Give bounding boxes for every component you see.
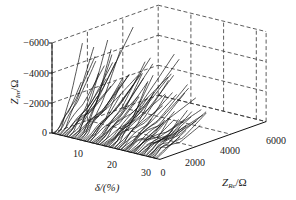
impedance-curve xyxy=(55,82,81,134)
impedance-3d-chart: −6000 −4000 −2000 0 10 20 30 0 2000 4000… xyxy=(0,0,296,200)
z-axis-title-unit: /Ω xyxy=(8,80,20,91)
z-tick-label: 0 xyxy=(42,127,47,138)
y-tick-label: 0 xyxy=(161,167,166,178)
z-tick-label: −6000 xyxy=(23,37,49,48)
x-tick-label: 20 xyxy=(107,159,117,170)
x-axis-title: δ/(%) xyxy=(95,181,120,194)
y-tick-label: 6000 xyxy=(266,135,286,146)
z-tick-label: −4000 xyxy=(23,68,49,79)
z-tick-label: −2000 xyxy=(23,98,49,109)
x-tick-label: 10 xyxy=(73,148,83,159)
y-axis-title: ZRe/Ω xyxy=(222,176,247,190)
z-axis-title: ZIm/Ω xyxy=(8,80,22,105)
grid-line xyxy=(158,95,266,121)
y-axis-title-sub: Re xyxy=(227,182,235,190)
grid-line xyxy=(158,35,266,61)
grid-line xyxy=(158,65,266,91)
grid-line xyxy=(52,5,158,43)
y-axis-title-unit: /Ω xyxy=(236,176,247,188)
y-tick-label: 4000 xyxy=(220,145,240,156)
z-axis-title-sub: Im xyxy=(14,91,22,99)
y-tick-label: 2000 xyxy=(185,157,205,168)
x-tick-label: 30 xyxy=(141,167,151,178)
grid-line xyxy=(158,5,266,31)
